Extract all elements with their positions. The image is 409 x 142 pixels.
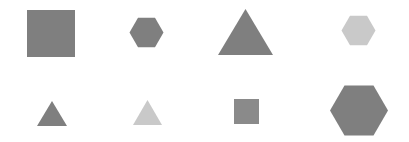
triangle-shape-r2c2 <box>133 100 162 125</box>
hexagon-shape-r2c4 <box>330 85 388 135</box>
square-shape-r2c3 <box>234 99 259 124</box>
hexagon-shape-r1c2 <box>130 18 164 47</box>
shapes-drawing <box>0 0 409 142</box>
triangle-shape-r1c3 <box>218 9 273 55</box>
hexagon-shape-r1c4 <box>342 16 376 45</box>
shapes-canvas <box>0 0 409 142</box>
triangle-shape-r2c1 <box>37 101 67 126</box>
square-shape-r1c1 <box>27 10 75 57</box>
